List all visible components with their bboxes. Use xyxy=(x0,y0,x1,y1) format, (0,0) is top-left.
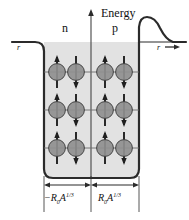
figure-root: Energy n p r r −R0A1/3 R0A1/3 xyxy=(0,0,189,220)
r-axis-arrow-right xyxy=(165,44,180,49)
coulomb-barrier-curve xyxy=(139,17,186,42)
dim-left-sup: 1/3 xyxy=(66,192,74,198)
neutron-region-label: n xyxy=(62,22,68,34)
potential-well-diagram xyxy=(0,0,189,220)
dimension-label-right: R0A1/3 xyxy=(98,192,121,205)
dim-left-prefix: −R xyxy=(44,192,57,203)
energy-axis-arrowhead xyxy=(88,9,94,16)
dim-right-sup: 1/3 xyxy=(113,192,121,198)
r-label-left: r xyxy=(17,44,20,52)
dimension-label-left: −R0A1/3 xyxy=(44,192,74,205)
r-label-right: r xyxy=(157,44,160,52)
energy-axis-label: Energy xyxy=(101,7,135,19)
proton-region-label: p xyxy=(112,22,118,34)
